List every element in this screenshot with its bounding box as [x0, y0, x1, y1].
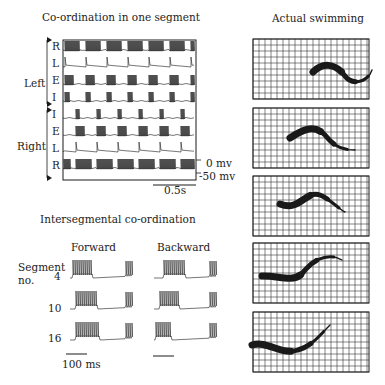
- figure-graphics: [0, 0, 385, 385]
- swimming-frame-4: [253, 243, 369, 303]
- swimming-frame-2: [253, 108, 369, 168]
- swimming-frame-3: [253, 176, 369, 236]
- swimming-frame-5: [252, 312, 369, 372]
- swimming-frame-1: [253, 39, 372, 99]
